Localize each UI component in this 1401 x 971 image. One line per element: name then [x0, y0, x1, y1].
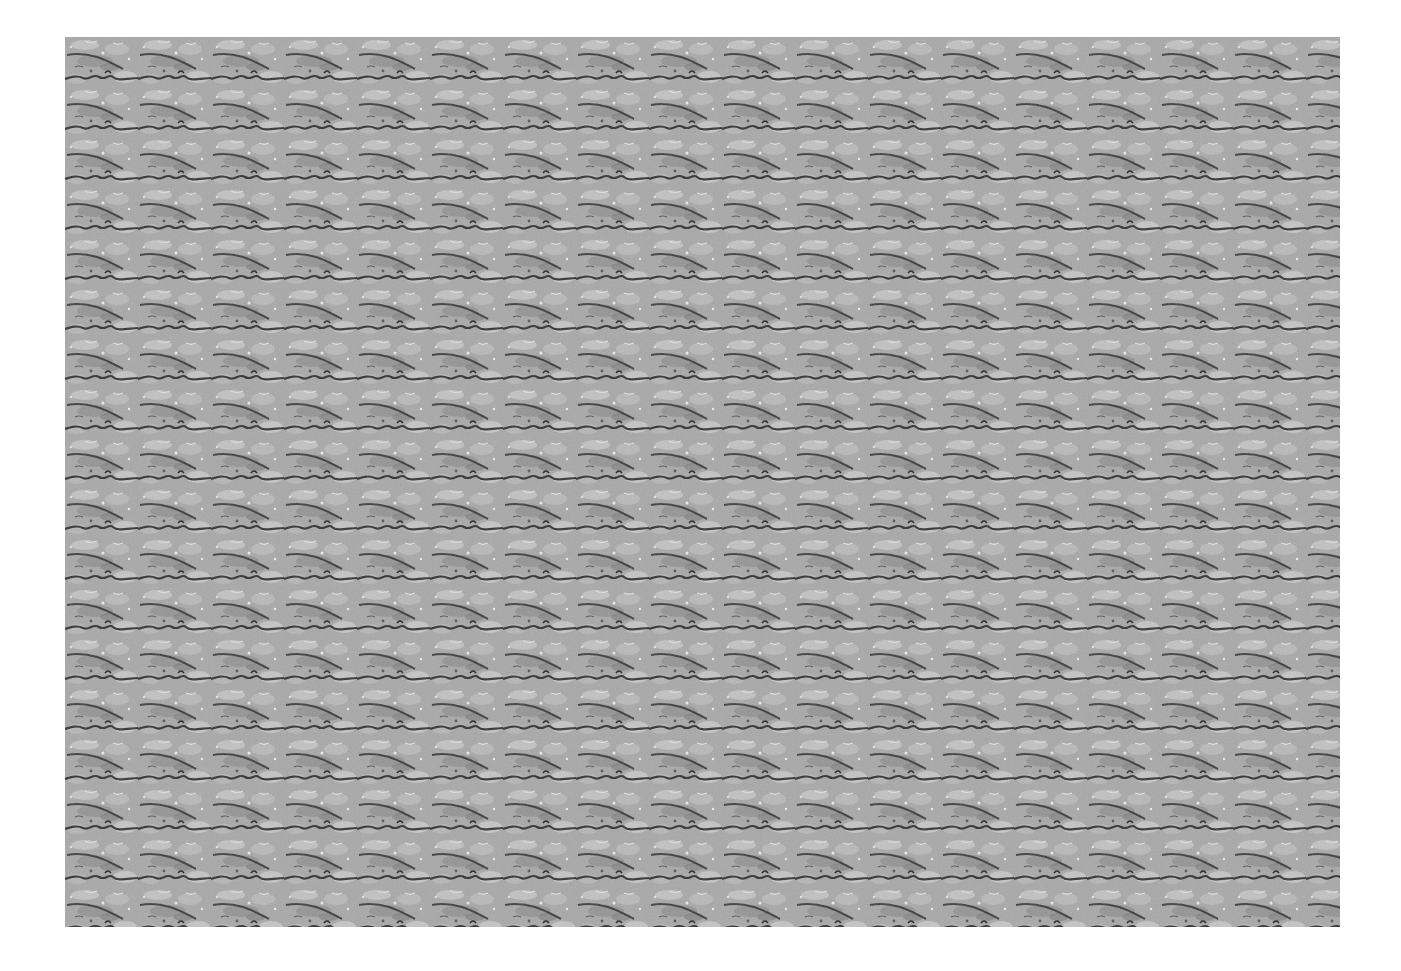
stereogram-texture: [65, 37, 1340, 927]
stereogram-image: Repeating grey textured tile pattern (ma…: [65, 37, 1340, 927]
